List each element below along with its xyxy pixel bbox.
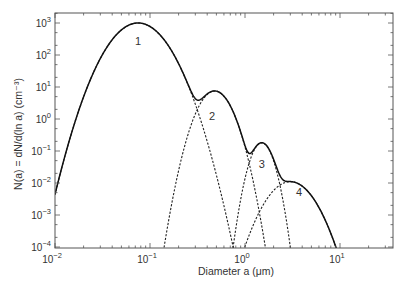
y-tick-label: 10−2 <box>31 175 51 189</box>
mode-labels: 1234 <box>135 35 302 197</box>
y-tick-label: 102 <box>36 47 51 61</box>
curves-layer <box>55 23 340 262</box>
y-tick-label: 100 <box>36 111 51 125</box>
y-tick-label: 103 <box>36 15 51 29</box>
x-tick-label: 10−1 <box>137 251 157 265</box>
x-axis-title: Diameter a (μm) <box>198 265 274 277</box>
size-distribution-chart: 10−210−1100101 10−410−310−210−1100101102… <box>0 0 405 295</box>
y-tick-label: 10−3 <box>31 207 51 221</box>
y-tick-label: 101 <box>36 79 51 93</box>
y-tick-label: 10−4 <box>31 239 51 253</box>
x-tick-label: 100 <box>234 251 249 265</box>
mode-label-2: 2 <box>209 110 215 122</box>
x-tick-label: 10−2 <box>42 251 62 265</box>
mode-label-4: 4 <box>296 186 302 198</box>
x-tick-labels: 10−210−1100101 <box>42 251 344 265</box>
mode-1-curve <box>55 23 236 260</box>
total-curve <box>55 23 340 261</box>
y-axis-title: N(a) = dN/d(ln a) (cm⁻³) <box>12 78 24 190</box>
mode-label-3: 3 <box>259 158 265 170</box>
chart-container: 10−210−1100101 10−410−310−210−1100101102… <box>0 0 405 295</box>
x-tick-label: 101 <box>329 251 344 265</box>
y-tick-labels: 10−410−310−210−1100101102103 <box>31 15 51 253</box>
mode-label-1: 1 <box>135 35 141 47</box>
y-tick-label: 10−1 <box>31 143 51 157</box>
